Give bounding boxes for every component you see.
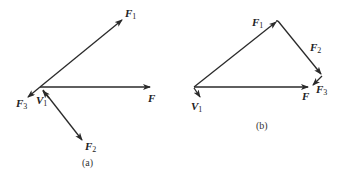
label-f-a: F xyxy=(147,92,156,104)
caption-a: (a) xyxy=(82,157,93,169)
vector-f1-a xyxy=(40,20,122,87)
label-v1-b: V1 xyxy=(191,100,202,114)
force-polygon-figure: F1 F F2 F3 V1 (a) F1 F2 F3 F V1 (b) xyxy=(0,0,337,174)
panel-a: F1 F F2 F3 V1 (a) xyxy=(15,7,156,169)
label-f3-b: F3 xyxy=(315,83,327,97)
label-f-b: F xyxy=(301,90,310,102)
vector-v1-a xyxy=(43,91,49,98)
label-f3-a: F3 xyxy=(15,97,27,111)
label-f1-b: F1 xyxy=(251,16,263,30)
caption-b: (b) xyxy=(256,120,268,132)
vector-v1-b xyxy=(194,88,200,97)
label-f2-a: F2 xyxy=(84,140,96,154)
vector-f1-b xyxy=(194,22,276,87)
panel-b: F1 F2 F3 F V1 (b) xyxy=(191,16,327,132)
label-v1-a: V1 xyxy=(36,94,47,108)
label-f1-a: F1 xyxy=(124,7,136,21)
label-f2-b: F2 xyxy=(309,41,321,55)
